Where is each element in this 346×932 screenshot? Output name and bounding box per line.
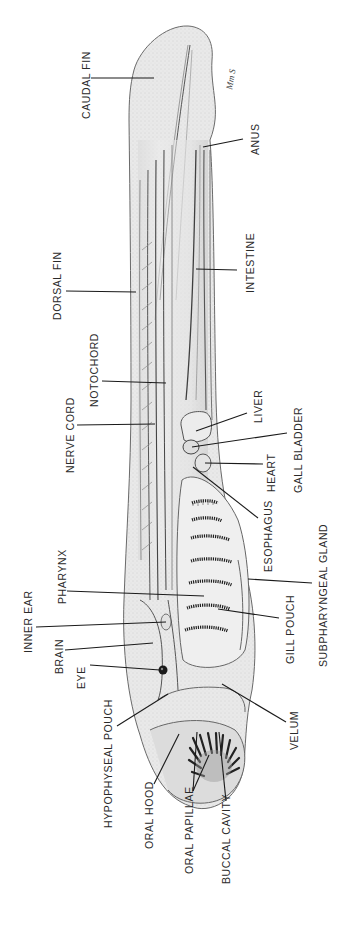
label-oral-papillae: ORAL PAPILLAE bbox=[184, 786, 195, 874]
label-subpharyngeal-gland: SUBPHARYNGEAL GLAND bbox=[318, 524, 329, 667]
label-oral-hood: ORAL HOOD bbox=[144, 781, 155, 849]
label-dorsal-fin: DORSAL FIN bbox=[52, 251, 63, 320]
gall-bladder-shape bbox=[183, 440, 199, 454]
label-brain: BRAIN bbox=[54, 639, 65, 674]
label-liver: LIVER bbox=[253, 390, 264, 423]
leader-subpharyngeal-gland bbox=[248, 579, 312, 583]
label-notochord: NOTOCHORD bbox=[89, 333, 100, 407]
label-eye: EYE bbox=[76, 666, 87, 689]
label-buccal-cavity: BUCCAL CAVITY bbox=[221, 794, 232, 884]
label-pharynx: PHARYNX bbox=[57, 549, 68, 604]
label-gill-pouch: GILL POUCH bbox=[285, 595, 296, 664]
pharynx bbox=[177, 477, 249, 667]
artist-signature: Mm S bbox=[224, 68, 238, 92]
label-esophagus: ESOPHAGUS bbox=[263, 500, 274, 572]
label-nerve-cord: NERVE CORD bbox=[65, 397, 76, 473]
label-gall-bladder: GALL BLADDER bbox=[293, 407, 304, 493]
label-anus: ANUS bbox=[250, 123, 261, 155]
label-velum: VELUM bbox=[289, 711, 300, 750]
label-inner-ear: INNER EAR bbox=[23, 590, 34, 653]
label-heart: HEART bbox=[266, 454, 277, 492]
label-intestine: INTESTINE bbox=[245, 233, 256, 293]
label-caudal-fin: CAUDAL FIN bbox=[81, 51, 92, 119]
leader-dorsal-fin bbox=[66, 291, 136, 292]
label-hypophyseal-pouch: HYPOPHYSEAL POUCH bbox=[103, 699, 114, 828]
